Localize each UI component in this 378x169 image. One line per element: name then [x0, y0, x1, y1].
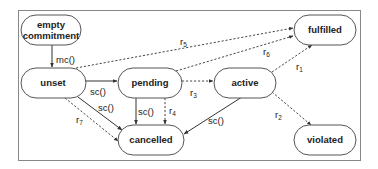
- label-sc-unset-cancelled: sc(): [98, 102, 114, 113]
- label-r2: r2: [275, 109, 282, 121]
- label-r7: r7: [76, 114, 83, 126]
- label-sc-unset-pending: sc(): [90, 86, 106, 97]
- label-r4: r4: [169, 105, 176, 117]
- node-pending: pending: [118, 68, 182, 98]
- edge-active-fulfilled-r1: [272, 45, 312, 72]
- svg-text:unset: unset: [40, 77, 66, 88]
- edge-pending-fulfilled-r6: [176, 36, 293, 71]
- state-diagram: mc() sc() sc() r7 r5 r3 sc() r4 r6 r1 r2…: [0, 0, 378, 169]
- edge-unset-fulfilled-r5: [76, 28, 293, 68]
- svg-text:pending: pending: [132, 77, 169, 88]
- label-r1: r1: [296, 61, 303, 73]
- node-empty-commitment: empty commitment: [21, 15, 81, 45]
- label-r6: r6: [263, 46, 270, 58]
- label-sc-active-cancelled: sc(): [208, 115, 224, 126]
- node-violated: violated: [294, 125, 356, 155]
- node-fulfilled: fulfilled: [294, 15, 356, 45]
- svg-text:empty: empty: [37, 19, 66, 30]
- node-cancelled: cancelled: [118, 125, 184, 155]
- svg-text:cancelled: cancelled: [129, 134, 172, 145]
- label-mc: mc(): [56, 54, 75, 65]
- svg-text:commitment: commitment: [23, 30, 80, 41]
- svg-text:violated: violated: [307, 134, 343, 145]
- label-r3: r3: [190, 87, 197, 99]
- node-unset: unset: [21, 68, 86, 98]
- svg-text:active: active: [232, 77, 259, 88]
- node-active: active: [214, 68, 276, 98]
- label-sc-pending-cancelled: sc(): [138, 106, 154, 117]
- label-r5: r5: [180, 36, 187, 48]
- svg-text:fulfilled: fulfilled: [308, 24, 342, 35]
